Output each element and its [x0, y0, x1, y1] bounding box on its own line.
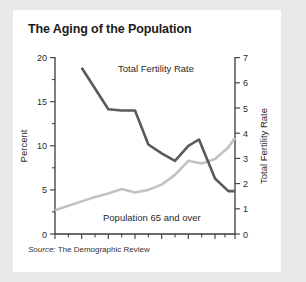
left-tick-label-15: 15: [37, 97, 47, 107]
right-tick-label-5: 5: [243, 104, 248, 114]
series-line-total-fertility-rate: [82, 68, 235, 191]
left-tick-label-10: 10: [37, 141, 47, 151]
left-axis-ticks: [50, 58, 55, 234]
screenshot-root: The Aging of the Population: [0, 0, 306, 282]
right-tick-label-1: 1: [243, 204, 248, 214]
right-axis-title: Total Fertility Rate: [258, 108, 269, 184]
x-axis-ticks: [55, 234, 235, 239]
chart-plot-area: 20 15 10 5 0 Percent 7: [13, 40, 281, 240]
right-tick-label-7: 7: [243, 53, 248, 63]
source-value: The Demographic Review: [56, 245, 150, 254]
source-keyword: Source:: [28, 245, 56, 254]
page-title: The Aging of the Population: [28, 22, 191, 36]
left-tick-label-5: 5: [42, 185, 47, 195]
right-tick-label-3: 3: [243, 154, 248, 164]
left-axis-title: Percent: [18, 129, 29, 162]
right-axis-ticks: [235, 58, 240, 234]
chart-card: The Aging of the Population: [13, 10, 281, 272]
left-tick-label-0: 0: [42, 230, 47, 240]
series-label-population-65-and-over: Population 65 and over: [103, 212, 201, 223]
right-tick-label-0: 0: [243, 230, 248, 240]
series-label-total-fertility-rate: Total Fertility Rate: [118, 63, 194, 74]
line-chart-svg: 20 15 10 5 0 Percent 7: [13, 40, 281, 240]
series-line-population-65-and-over: [55, 138, 235, 210]
source-note: Source: The Demographic Review: [28, 245, 150, 254]
left-tick-label-20: 20: [37, 53, 47, 63]
right-tick-label-4: 4: [243, 129, 248, 139]
right-tick-label-2: 2: [243, 179, 248, 189]
right-tick-label-6: 6: [243, 78, 248, 88]
